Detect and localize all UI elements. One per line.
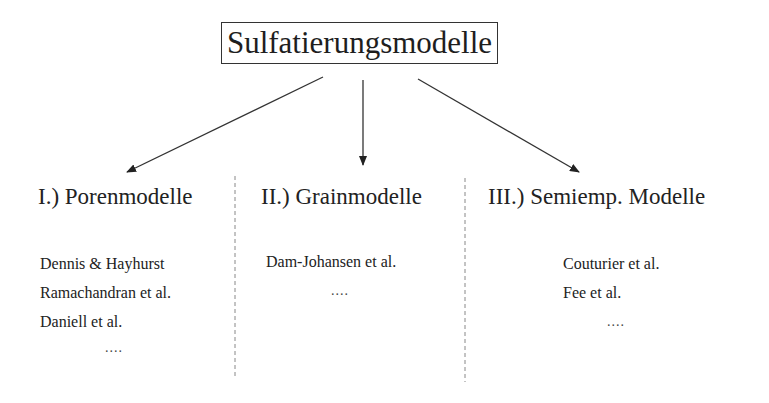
ellipsis: .... — [607, 314, 625, 330]
category-title-semiemp-modelle: III.) Semiemp. Modelle — [488, 184, 705, 210]
list-item: Fee et al. — [563, 284, 621, 302]
list-item: Ramachandran et al. — [40, 284, 171, 302]
ellipsis: .... — [331, 283, 349, 299]
list-item: Dennis & Hayhurst — [40, 255, 164, 273]
category-title-porenmodelle: I.) Porenmodelle — [38, 184, 193, 210]
arrow-to-semiemp-modelle — [418, 79, 579, 172]
category-title-grainmodelle: II.) Grainmodelle — [261, 184, 422, 210]
ellipsis: .... — [105, 340, 123, 356]
list-item: Daniell et al. — [40, 313, 122, 331]
list-item: Dam-Johansen et al. — [266, 253, 396, 271]
arrow-to-porenmodelle — [127, 77, 323, 172]
list-item: Couturier et al. — [563, 255, 659, 273]
